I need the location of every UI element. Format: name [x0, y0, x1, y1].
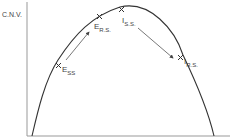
- label-irs: IR.S.: [184, 57, 198, 68]
- marker-ess: [56, 63, 61, 68]
- marker-iss: [119, 7, 124, 12]
- arrow-iss-to-irs: [138, 28, 173, 58]
- cnv-curve: [32, 6, 214, 136]
- label-ess: ESS: [62, 65, 75, 76]
- marker-ers: [97, 14, 102, 19]
- y-axis-label: C.N.V.: [2, 11, 22, 18]
- label-ers: ER.S.: [94, 22, 111, 33]
- marker-irs: [178, 55, 183, 60]
- label-iss: IS.S.: [122, 16, 136, 27]
- arrow-ess-to-ers: [66, 32, 89, 60]
- cnv-diagram: C.N.V. ESS ER.S. IS.S. IR.S.: [0, 0, 232, 140]
